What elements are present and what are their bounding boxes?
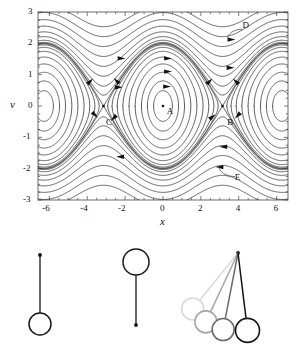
- pendulum-swinging-pendulum-sequence: [182, 251, 260, 342]
- x-tick-label: -6: [42, 203, 50, 213]
- pendulum-pivot: [38, 253, 42, 257]
- annotation-label-b: B: [227, 117, 233, 127]
- pendulum-diagrams: [29, 249, 260, 342]
- flow-arrow: [164, 56, 172, 60]
- stream-curve: [273, 91, 292, 122]
- x-tick-label: 2: [198, 203, 203, 213]
- stream-curve: [0, 5, 306, 27]
- annotation-label-e: E: [235, 172, 241, 182]
- flow-arrow: [116, 155, 124, 159]
- annotation-label-d: D: [242, 20, 249, 30]
- annotation-label-c: C: [106, 117, 112, 127]
- figure-svg: [0, 0, 306, 354]
- flow-arrow: [163, 84, 171, 88]
- y-tick-label: 3: [28, 6, 33, 16]
- fixed-point-marker-c: [102, 105, 105, 108]
- pendulum-pivot: [134, 323, 138, 327]
- x-tick-label: -2: [118, 203, 126, 213]
- pendulum-hanging-pendulum: [29, 253, 51, 335]
- stream-curve: [254, 64, 306, 148]
- y-tick-label: -3: [23, 194, 31, 204]
- stream-curve: [260, 72, 303, 140]
- x-axis-title: x: [160, 215, 165, 227]
- stream-curve: [10, 57, 78, 155]
- flow-arrow: [227, 66, 235, 70]
- stream-curve: [236, 47, 306, 164]
- pendulum-bob-3: [236, 318, 260, 342]
- stream-curve: [248, 57, 306, 155]
- y-tick-label: 1: [28, 69, 33, 79]
- pendulum-bob: [29, 313, 51, 335]
- stream-curve: [28, 81, 59, 131]
- streamlines: [0, 5, 306, 207]
- pendulum-bob: [123, 249, 149, 275]
- fixed-point-marker-a: [162, 105, 165, 108]
- annotation-label-a: A: [167, 106, 174, 116]
- x-tick-label: 4: [236, 203, 241, 213]
- y-tick-label: 2: [28, 37, 33, 47]
- stream-curve: [266, 81, 297, 131]
- stream-curve: [0, 13, 306, 37]
- pendulum-phase-figure: [0, 0, 306, 354]
- y-axis-title: v: [10, 98, 15, 110]
- fixed-point-marker-b: [221, 105, 224, 108]
- pendulum-inverted-pendulum: [123, 249, 149, 327]
- y-tick-label: -2: [23, 163, 31, 173]
- x-tick-label: -4: [80, 203, 88, 213]
- x-tick-label: 0: [160, 203, 165, 213]
- stream-curve: [35, 91, 54, 122]
- stream-curve: [0, 175, 306, 199]
- pendulum-bob-2: [212, 319, 234, 341]
- y-tick-label: 0: [28, 100, 33, 110]
- stream-curve: [242, 51, 306, 160]
- flow-arrow: [228, 37, 236, 41]
- figure-root: -6-4-202463210-1-2-3xvABCDE: [0, 0, 306, 354]
- y-tick-label: -1: [23, 131, 31, 141]
- flow-arrow: [219, 145, 227, 149]
- x-tick-label: 6: [274, 203, 279, 213]
